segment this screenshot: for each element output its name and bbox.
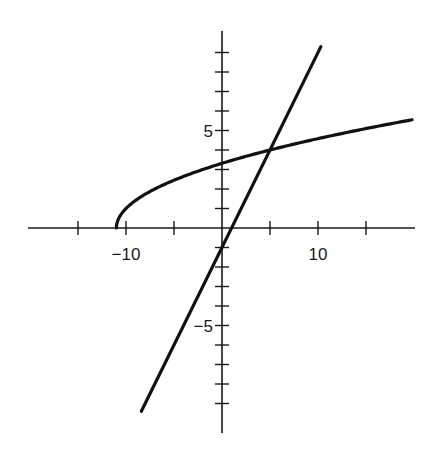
y-tick-label: −5 <box>194 317 213 336</box>
linear-line <box>141 47 321 412</box>
series <box>116 47 412 412</box>
x-tick-label: −10 <box>112 245 141 264</box>
chart: −10105−5 <box>0 0 431 451</box>
y-tick-label: 5 <box>204 122 213 141</box>
sqrt-curve <box>116 120 412 228</box>
x-tick-label: 10 <box>309 245 328 264</box>
